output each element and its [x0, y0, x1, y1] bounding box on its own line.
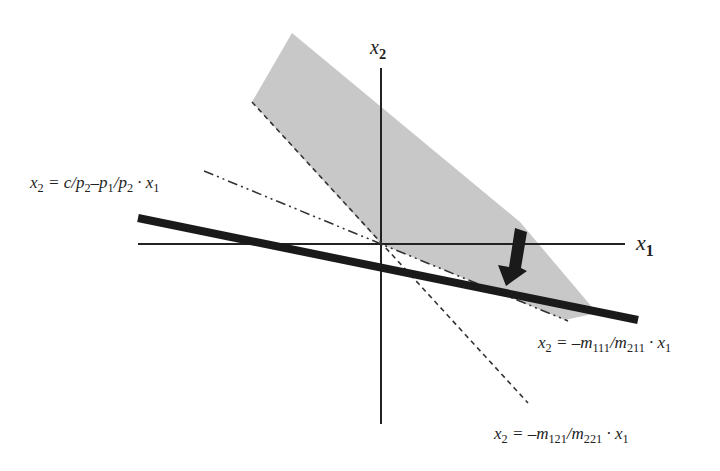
x1-axis-label: x1	[636, 230, 654, 260]
budget-line-label: x2 = c/p2–p1/p2 · x1	[30, 173, 159, 196]
diagram-canvas	[0, 0, 720, 471]
line-m121-label: x2 = –m121/m221 · x1	[494, 424, 629, 447]
line-m111-label: x2 = –m111/m211 · x1	[538, 333, 671, 356]
x2-axis-label: x2	[370, 36, 386, 63]
